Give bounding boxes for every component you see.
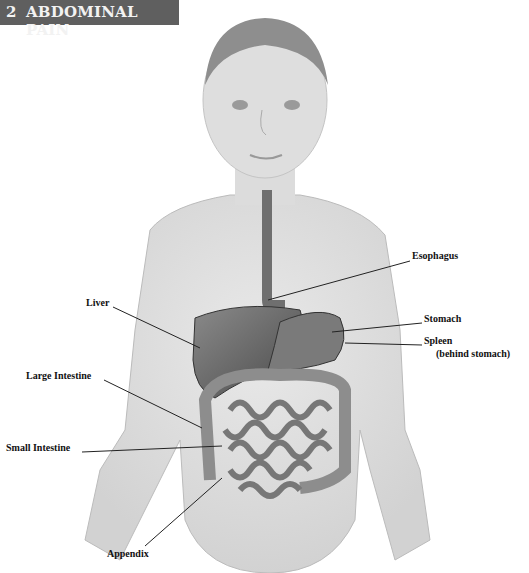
label-stomach: Stomach — [424, 313, 461, 324]
label-small-intestine: Small Intestine — [6, 442, 70, 453]
label-esophagus: Esophagus — [412, 250, 458, 261]
anatomy-illustration — [0, 0, 529, 573]
label-large-intestine: Large Intestine — [26, 370, 91, 381]
label-spleen-note: (behind stomach) — [436, 348, 510, 359]
label-appendix: Appendix — [107, 548, 149, 559]
label-liver: Liver — [86, 297, 109, 308]
label-spleen: Spleen — [424, 335, 452, 346]
head — [203, 18, 328, 178]
